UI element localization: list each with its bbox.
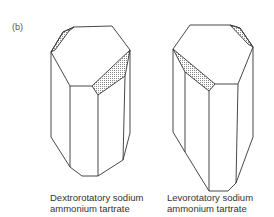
caption-line: ammonium tartrate xyxy=(50,203,143,214)
shaded-facet-upper-left xyxy=(51,27,74,52)
caption-dextrorotatory: Dextrorotatory sodium ammonium tartrate xyxy=(50,192,143,214)
caption-line: ammonium tartrate xyxy=(167,203,253,214)
levorotatory-crystal xyxy=(173,25,253,191)
crystals-diagram xyxy=(0,0,274,217)
shaded-facet-upper-right xyxy=(230,25,253,47)
dextrorotatory-crystal xyxy=(51,26,130,176)
caption-line: Dextrorotatory sodium xyxy=(50,192,143,203)
caption-line: Levorotatory sodium xyxy=(167,192,253,203)
caption-levorotatory: Levorotatory sodium ammonium tartrate xyxy=(167,192,253,214)
shaded-facet-left xyxy=(173,49,215,91)
